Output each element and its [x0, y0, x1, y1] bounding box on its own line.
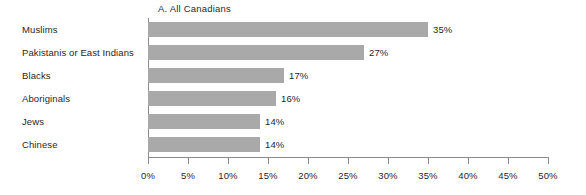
bar-value-label: 14% [265, 114, 284, 129]
category-label: Jews [22, 110, 44, 133]
bar [148, 45, 364, 60]
x-axis-tick-label: 50% [538, 170, 557, 181]
category-label: Aboriginals [22, 87, 70, 110]
x-axis-tick-label: 0% [141, 170, 155, 181]
x-axis-tick [508, 158, 509, 164]
chart-figure: A. All Canadians MuslimsPakistanis or Ea… [0, 0, 586, 195]
x-axis-tick-label: 5% [181, 170, 195, 181]
bar-value-label: 27% [369, 45, 388, 60]
bar-row: 14% [148, 110, 548, 133]
x-axis-tick-label: 30% [378, 170, 397, 181]
bar [148, 91, 276, 106]
bar-value-label: 35% [433, 22, 452, 37]
bar-row: 27% [148, 41, 548, 64]
bar [148, 68, 284, 83]
x-axis-tick [308, 158, 309, 164]
category-label: Chinese [22, 133, 58, 156]
category-label: Pakistanis or East Indians [22, 41, 134, 64]
x-axis-tick [148, 158, 149, 164]
x-axis-tick-label: 25% [338, 170, 357, 181]
category-label: Blacks [22, 64, 51, 87]
chart-title: A. All Canadians [158, 3, 231, 14]
x-axis-tick [228, 158, 229, 164]
category-axis-labels: MuslimsPakistanis or East IndiansBlacksA… [0, 18, 142, 157]
x-axis-tick [188, 158, 189, 164]
x-axis-tick [428, 158, 429, 164]
bar-row: 16% [148, 87, 548, 110]
x-axis-tick-label: 20% [298, 170, 317, 181]
x-axis-tick [268, 158, 269, 164]
plot-area: 35%27%17%16%14%14% [148, 18, 548, 157]
bar [148, 137, 260, 152]
x-axis-tick-label: 45% [498, 170, 517, 181]
bar [148, 114, 260, 129]
x-axis-tick [388, 158, 389, 164]
bar-row: 14% [148, 133, 548, 156]
bar [148, 22, 428, 37]
category-label: Muslims [22, 18, 58, 41]
bar-value-label: 14% [265, 137, 284, 152]
bar-value-label: 17% [289, 68, 308, 83]
x-axis-tick [348, 158, 349, 164]
x-axis-tick-label: 10% [218, 170, 237, 181]
bar-row: 17% [148, 64, 548, 87]
x-axis-tick-label: 15% [258, 170, 277, 181]
bar-row: 35% [148, 18, 548, 41]
x-axis-tick-label: 35% [418, 170, 437, 181]
bar-value-label: 16% [281, 91, 300, 106]
x-axis-tick [548, 158, 549, 164]
x-axis-tick-label: 40% [458, 170, 477, 181]
x-axis-tick [468, 158, 469, 164]
